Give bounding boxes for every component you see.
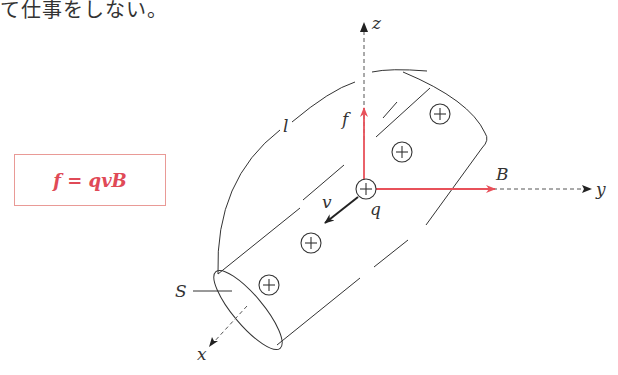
label-z: z (371, 13, 382, 33)
label-f: f (340, 109, 351, 129)
y-axis-arrowhead (582, 185, 592, 193)
charge-2 (392, 142, 412, 162)
label-S: S (175, 281, 187, 301)
label-y: y (595, 179, 606, 199)
z-axis-arrowhead (360, 22, 368, 32)
length-arc (218, 130, 280, 274)
label-q: q (370, 199, 381, 219)
label-B: B (495, 164, 509, 184)
label-v: v (322, 192, 332, 212)
label-x: x (197, 344, 207, 364)
conductor-diagram: l z y x f B v q (0, 0, 618, 375)
charge-q (356, 179, 376, 199)
charge-3 (301, 233, 321, 253)
charge-4 (259, 275, 279, 295)
charge-1 (430, 104, 450, 124)
label-l: l (283, 116, 288, 136)
